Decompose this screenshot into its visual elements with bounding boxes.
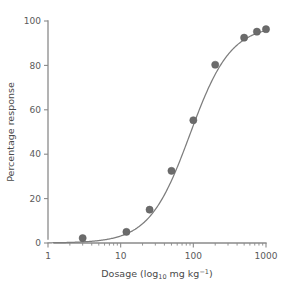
y-axis-title: Percentage response <box>5 82 16 182</box>
data-point <box>241 34 248 41</box>
y-tick-label: 80 <box>30 61 42 71</box>
chart-figure: 0204060801001101001000Percentage respons… <box>0 0 281 292</box>
data-point <box>123 228 130 235</box>
y-tick-label: 40 <box>30 149 42 159</box>
y-tick-label: 0 <box>35 238 41 248</box>
y-tick-label: 20 <box>30 194 42 204</box>
fitted-curve <box>48 31 266 243</box>
x-axis-title: Dosage (log10 mg kg−1) <box>101 268 212 281</box>
data-point <box>146 206 153 213</box>
data-point <box>253 28 260 35</box>
y-tick-label: 60 <box>30 105 42 115</box>
data-point <box>212 61 219 68</box>
data-point <box>168 167 175 174</box>
x-tick-label: 1 <box>45 251 51 261</box>
dose-response-chart: 0204060801001101001000Percentage respons… <box>0 0 281 292</box>
data-point <box>190 117 197 124</box>
x-tick-label: 10 <box>115 251 127 261</box>
data-point <box>262 26 269 33</box>
y-tick-label: 100 <box>24 16 41 26</box>
x-tick-label: 1000 <box>255 251 278 261</box>
x-tick-label: 100 <box>185 251 202 261</box>
data-point <box>79 235 86 242</box>
